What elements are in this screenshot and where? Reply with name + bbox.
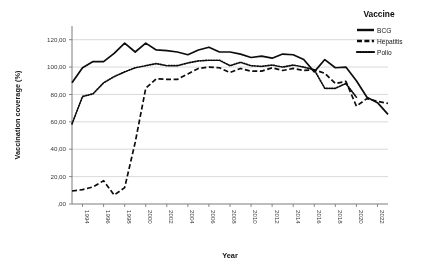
x-tick-label: 2002 <box>168 210 175 224</box>
y-tick-label: 40,00 <box>51 145 67 152</box>
series-line-polio <box>72 60 356 124</box>
x-tick-label: 2020 <box>358 210 365 224</box>
legend-item-polio[interactable]: Polio <box>357 49 392 56</box>
y-tick-label: 100,00 <box>47 63 66 70</box>
x-tick-label: 2012 <box>274 210 281 224</box>
legend-label-hepatitis: Hepatitis <box>377 38 403 46</box>
legend-label-bcg: BCG <box>377 27 391 34</box>
x-tick-label: 1996 <box>105 210 112 224</box>
gridlines-group <box>72 40 388 177</box>
vaccination-coverage-line-chart: ,0020,0040,0060,0080,00100,00120,00 1994… <box>0 0 439 270</box>
y-tick-label: 120,00 <box>47 36 66 43</box>
legend-item-hepatitis[interactable]: Hepatitis <box>357 38 403 46</box>
y-axis-title: Vaccination coverage (%) <box>13 70 22 160</box>
x-axis-title: Year <box>222 251 238 260</box>
x-tick-labels-group: 1994199619982000200220042006200820102012… <box>83 204 386 224</box>
y-tick-label: 80,00 <box>51 91 67 98</box>
x-tick-label: 1994 <box>84 210 91 224</box>
x-tick-label: 2004 <box>189 210 196 224</box>
x-tick-label: 2018 <box>337 210 344 224</box>
x-tick-label: 2010 <box>252 210 259 224</box>
y-tick-label: 60,00 <box>51 118 67 125</box>
x-tick-label: 2014 <box>295 210 302 224</box>
legend-label-polio: Polio <box>377 49 392 56</box>
y-tick-label: ,00 <box>57 200 66 207</box>
x-tick-label: 2008 <box>231 210 238 224</box>
x-tick-label: 1998 <box>126 210 133 224</box>
x-tick-label: 2000 <box>147 210 154 224</box>
series-line-bcg <box>72 43 388 114</box>
chart-svg: ,0020,0040,0060,0080,00100,00120,00 1994… <box>0 0 439 270</box>
y-tick-label: 20,00 <box>51 173 67 180</box>
x-tick-label: 2022 <box>379 210 386 224</box>
series-group <box>72 43 388 195</box>
legend: Vaccine BCG Hepatitis Polio <box>357 9 403 56</box>
legend-title: Vaccine <box>363 9 395 19</box>
x-tick-label: 2006 <box>210 210 217 224</box>
y-tick-labels-group: ,0020,0040,0060,0080,00100,00120,00 <box>47 36 72 207</box>
legend-item-bcg[interactable]: BCG <box>357 27 391 34</box>
x-tick-label: 2016 <box>316 210 323 224</box>
